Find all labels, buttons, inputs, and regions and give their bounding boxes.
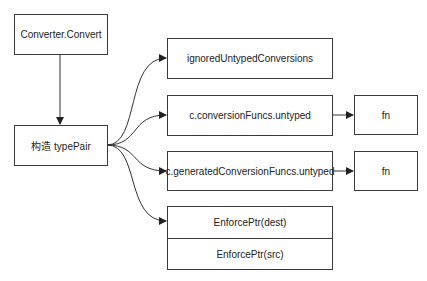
node-conversion-funcs-untyped: c.conversionFuncs.untyped [167, 95, 333, 136]
node-ignored-untyped-conversions: ignoredUntypedConversions [167, 38, 333, 79]
node-construct-typepair: 构造 typePair [14, 125, 108, 166]
node-converter-convert: Converter.Convert [14, 14, 108, 55]
edge-typepair-to-enforceptr [107, 145, 166, 221]
node-generated-conversion-funcs-untyped: c.generatedConversionFuncs.untyped [167, 151, 333, 191]
node-enforceptr-dest: EnforcePtr(dest) [168, 207, 332, 238]
node-enforceptr-group: EnforcePtr(dest) EnforcePtr(src) [167, 206, 333, 270]
node-enforceptr-src: EnforcePtr(src) [168, 238, 332, 269]
edge-typepair-to-ignored [107, 58, 166, 145]
edge-typepair-to-generatedfuncs [107, 145, 166, 171]
edge-typepair-to-conversionfuncs [107, 115, 166, 145]
node-fn-conversion: fn [354, 95, 418, 135]
node-fn-generated: fn [354, 151, 418, 191]
